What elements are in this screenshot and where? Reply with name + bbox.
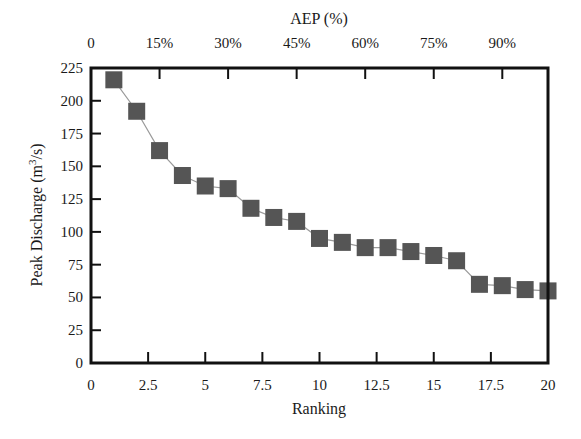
y-tick-label: 150 [61, 158, 84, 174]
data-point-marker [105, 71, 122, 88]
y-axis-title: Peak Discharge (m3/s) [26, 144, 46, 287]
data-point-marker [311, 230, 328, 247]
y-tick-label: 0 [76, 355, 84, 371]
x-tick-label: 2.5 [139, 377, 158, 393]
y-tick-label: 50 [68, 289, 83, 305]
aep-axis-title: AEP (%) [290, 10, 348, 28]
data-point-marker [220, 180, 237, 197]
data-point-marker [197, 178, 214, 195]
x-axis-ticks: 02.557.51012.51517.520 [87, 352, 555, 393]
x-tick-label: 7.5 [253, 377, 272, 393]
y-tick-label: 25 [68, 322, 83, 338]
x-axis-title: Ranking [292, 400, 346, 418]
aep-tick-label: 45% [283, 35, 311, 51]
aep-tick-label: 75% [420, 35, 448, 51]
plot-frame [91, 68, 548, 363]
y-tick-label: 125 [61, 191, 84, 207]
data-point-marker [174, 167, 191, 184]
y-tick-label: 200 [61, 93, 84, 109]
data-point-marker [517, 281, 534, 298]
aep-tick-label: 30% [214, 35, 242, 51]
top-axis-ticks: 015%30%45%60%75%90% [87, 35, 516, 79]
data-series [105, 71, 556, 299]
data-point-marker [471, 276, 488, 293]
x-tick-label: 10 [312, 377, 327, 393]
data-point-marker [265, 209, 282, 226]
data-point-marker [380, 239, 397, 256]
x-tick-label: 15 [426, 377, 441, 393]
chart: AEP (%) 015%30%45%60%75%90% 025507510012… [0, 0, 581, 439]
x-tick-label: 12.5 [364, 377, 390, 393]
aep-tick-label: 90% [489, 35, 517, 51]
x-tick-label: 5 [202, 377, 210, 393]
data-point-marker [357, 239, 374, 256]
y-tick-label: 75 [68, 257, 83, 273]
data-point-marker [402, 243, 419, 260]
y-tick-label: 175 [61, 126, 84, 142]
figure-caption-clipped [0, 431, 581, 439]
data-point-marker [448, 252, 465, 269]
data-point-marker [288, 213, 305, 230]
x-tick-label: 20 [541, 377, 556, 393]
y-tick-label: 225 [61, 60, 84, 76]
data-point-marker [128, 103, 145, 120]
y-axis-ticks: 0255075100125150175200225 [61, 60, 102, 371]
data-point-marker [242, 200, 259, 217]
data-point-marker [425, 247, 442, 264]
aep-tick-label: 0 [87, 35, 95, 51]
data-point-marker [334, 234, 351, 251]
data-point-marker [494, 277, 511, 294]
data-point-marker [151, 142, 168, 159]
aep-tick-label: 15% [146, 35, 174, 51]
aep-tick-label: 60% [351, 35, 379, 51]
x-tick-label: 0 [87, 377, 95, 393]
top-axis-title: AEP (%) [290, 10, 348, 28]
series-line [114, 80, 548, 291]
x-tick-label: 17.5 [478, 377, 504, 393]
y-tick-label: 100 [61, 224, 84, 240]
